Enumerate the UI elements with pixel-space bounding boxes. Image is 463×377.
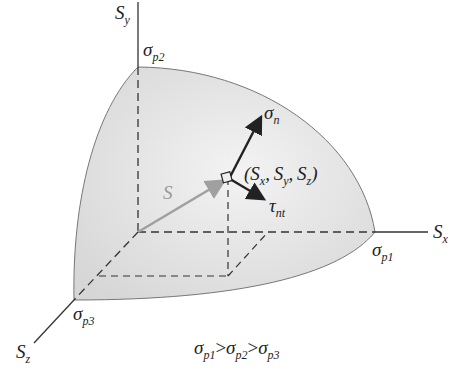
normal-stress-main: σ bbox=[264, 102, 273, 123]
ineq-b-sub: p2 bbox=[235, 348, 247, 362]
y-axis-label-sub: y bbox=[125, 13, 130, 27]
shear-stress-sub: nt bbox=[276, 206, 285, 220]
sigma-p1-main: σ bbox=[372, 239, 381, 260]
sigma-p3-main: σ bbox=[73, 303, 82, 324]
sep-2: , bbox=[289, 163, 294, 184]
s-vector-label: S bbox=[163, 183, 173, 202]
y-axis-label-main: S bbox=[115, 2, 125, 23]
sigma-p1-sub: p1 bbox=[381, 250, 393, 264]
normal-stress-sub: n bbox=[273, 113, 279, 127]
coord-sz-sub: z bbox=[307, 174, 312, 188]
paren-close: ) bbox=[311, 163, 317, 184]
ineq-a: σ bbox=[194, 337, 203, 358]
point-coordinates-label: (Sx, Sy, Sz) bbox=[244, 164, 318, 183]
stress-point-element bbox=[221, 172, 232, 183]
coord-sz: S bbox=[297, 163, 307, 184]
z-axis bbox=[34, 300, 74, 343]
ineq-c: σ bbox=[258, 337, 267, 358]
coord-sx-sub: x bbox=[260, 174, 265, 188]
shear-stress-label: τnt bbox=[269, 196, 285, 215]
coord-sy: S bbox=[274, 163, 284, 184]
coord-sy-sub: y bbox=[283, 174, 288, 188]
sep-1: , bbox=[265, 163, 270, 184]
z-axis-label-sub: z bbox=[26, 352, 31, 366]
normal-stress-label: σn bbox=[264, 103, 279, 122]
x-axis-label: Sx bbox=[433, 222, 448, 241]
x-axis-label-main: S bbox=[433, 221, 443, 242]
sigma-p1-label: σp1 bbox=[372, 240, 393, 259]
sigma-p2-sub: p2 bbox=[152, 50, 164, 64]
z-axis-label: Sz bbox=[16, 342, 30, 361]
sigma-p2-main: σ bbox=[143, 39, 152, 60]
ellipsoid-diagram bbox=[0, 0, 463, 377]
sigma-p2-label: σp2 bbox=[143, 40, 164, 59]
x-axis-label-sub: x bbox=[443, 232, 448, 246]
shear-stress-main: τ bbox=[269, 195, 276, 216]
sigma-p3-sub: p3 bbox=[82, 314, 94, 328]
ellipsoid-surface bbox=[74, 67, 375, 300]
sigma-p3-label: σp3 bbox=[73, 304, 94, 323]
y-axis-label: Sy bbox=[115, 3, 130, 22]
principal-stress-inequality: σp1>σp2>σp3 bbox=[194, 338, 280, 357]
ineq-a-sub: p1 bbox=[203, 348, 215, 362]
coord-sx: S bbox=[250, 163, 260, 184]
z-axis-label-main: S bbox=[16, 341, 26, 362]
gt-1: > bbox=[215, 337, 226, 358]
gt-2: > bbox=[247, 337, 258, 358]
ineq-c-sub: p3 bbox=[268, 348, 280, 362]
